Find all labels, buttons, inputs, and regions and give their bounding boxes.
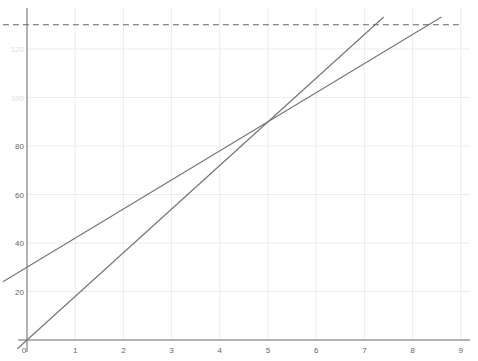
x-tick-label: 6 — [314, 346, 319, 355]
y-tick-label: 100 — [11, 94, 25, 103]
y-tick-label: 60 — [15, 191, 24, 200]
x-tick-label: 1 — [73, 346, 78, 355]
x-tick-label: 4 — [218, 346, 223, 355]
y-tick-label: 20 — [15, 288, 24, 297]
y-tick-label: 120 — [11, 45, 25, 54]
line-chart: 0123456789 20406080100120 — [0, 0, 478, 361]
axes — [18, 8, 470, 352]
series-line — [17, 17, 383, 349]
x-axis-ticks: 0123456789 — [22, 346, 464, 355]
x-tick-label: 0 — [22, 346, 27, 355]
y-axis-ticks: 20406080100120 — [11, 45, 25, 297]
x-tick-label: 9 — [459, 346, 464, 355]
series-lines — [3, 17, 461, 349]
gridlines — [27, 8, 470, 340]
y-tick-label: 40 — [15, 239, 24, 248]
x-tick-label: 2 — [121, 346, 126, 355]
x-tick-label: 8 — [410, 346, 415, 355]
x-tick-label: 3 — [169, 346, 174, 355]
y-tick-label: 80 — [15, 142, 24, 151]
x-tick-label: 7 — [362, 346, 367, 355]
x-tick-label: 5 — [266, 346, 271, 355]
series-line — [3, 17, 442, 282]
